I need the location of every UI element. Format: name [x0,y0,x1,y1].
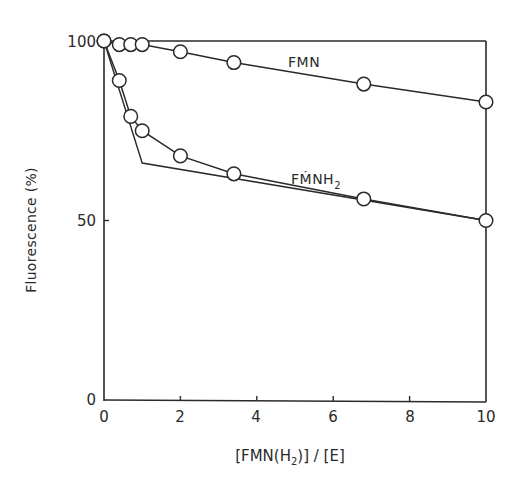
x-tick-0: 0 [99,408,109,426]
data-point-fmn [479,95,493,109]
x-axis-title: [FMN(H2)] / [E] [235,447,345,467]
data-point-fmnh2 [97,34,111,48]
x-tick-6: 6 [328,408,338,426]
data-point-fmn [357,77,371,91]
x-tick-2: 2 [175,408,185,426]
plot-area [97,34,493,402]
data-point-fmnh2 [112,74,126,88]
data-point-fmnh2 [124,110,138,124]
data-point-fmn [135,38,149,52]
x-axis-line [104,400,486,402]
x-tick-8: 8 [405,408,415,426]
series-line-fmn [104,41,486,102]
y-tick-100: 100 [67,33,96,51]
x-tick-10: 10 [476,408,495,426]
x-tick-labels: 0 2 4 6 8 10 [99,408,495,426]
fluorescence-chart: 100 50 0 0 2 4 6 8 10 FMN FṀNH2 Fluoresc… [0,0,509,494]
y-tick-labels: 100 50 0 [67,33,96,409]
data-point-fmnh2 [479,214,493,228]
data-point-fmn [174,45,188,59]
x-tick-4: 4 [251,408,261,426]
data-point-fmnh2 [227,167,241,181]
data-point-fmnh2 [357,192,371,206]
fmn-series-label: FMN [288,54,320,70]
data-point-fmnh2 [174,149,188,163]
data-point-fmnh2 [135,124,149,138]
y-tick-50: 50 [77,212,96,230]
fmnh2-series-label: FṀNH2 [291,170,341,191]
data-point-fmn [227,56,241,70]
y-axis-title: Fluorescence (%) [23,167,39,293]
y-tick-0: 0 [86,391,96,409]
